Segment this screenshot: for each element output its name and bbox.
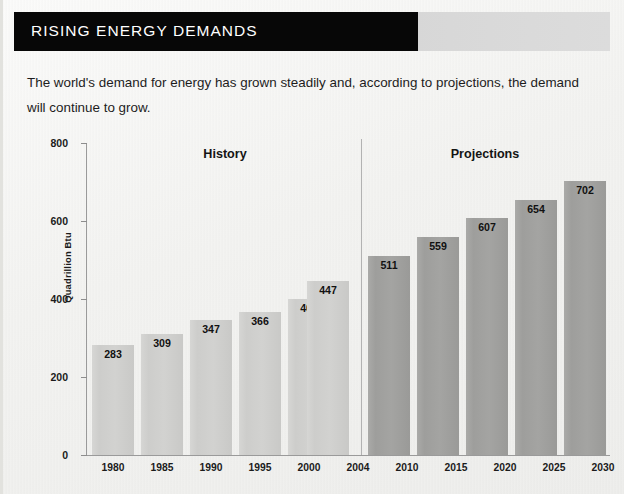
- y-tick-mark-400: [81, 299, 87, 300]
- x-tick-label-1995: 1995: [239, 462, 281, 473]
- y-tick-label-400: 400: [28, 293, 68, 305]
- x-tick-label-1990: 1990: [190, 462, 232, 473]
- bar-2010[interactable]: [368, 256, 410, 455]
- y-tick-mark-600: [81, 221, 87, 222]
- x-tick-label-1985: 1985: [141, 462, 183, 473]
- bar-value-2020: 607: [466, 221, 508, 233]
- bar-value-2004: 447: [307, 284, 349, 296]
- bar-value-1985: 309: [141, 337, 183, 349]
- y-tick-label-0: 0: [28, 449, 68, 461]
- x-tick-label-2015: 2015: [435, 462, 477, 473]
- bar-2004[interactable]: [307, 281, 349, 455]
- bar-1995[interactable]: [239, 312, 281, 455]
- bar-value-1980: 283: [92, 348, 134, 360]
- x-tick-label-2020: 2020: [484, 462, 526, 473]
- bar-value-2025: 654: [515, 203, 557, 215]
- bar-2025[interactable]: [515, 200, 557, 455]
- bar-value-2015: 559: [417, 240, 459, 252]
- y-tick-label-800: 800: [28, 137, 68, 149]
- bar-1980[interactable]: [92, 345, 134, 455]
- section-heading-history: History: [160, 147, 290, 161]
- x-tick-label-1980: 1980: [92, 462, 134, 473]
- bar-2015[interactable]: [417, 237, 459, 455]
- bar-value-1995: 366: [239, 315, 281, 327]
- bar-value-2010: 511: [368, 259, 410, 271]
- y-tick-label-600: 600: [28, 215, 68, 227]
- bar-2020[interactable]: [466, 218, 508, 455]
- bar-2030[interactable]: [564, 181, 606, 455]
- x-tick-label-2025: 2025: [533, 462, 575, 473]
- y-tick-label-200: 200: [28, 371, 68, 383]
- chart-page: RISING ENERGY DEMANDS The world's demand…: [0, 0, 624, 494]
- x-tick-label-2010: 2010: [386, 462, 428, 473]
- x-axis-line: [86, 455, 610, 456]
- bar-1985[interactable]: [141, 334, 183, 455]
- bar-chart: Quadrillion Btu 800 600 400 200 0 Histor…: [0, 0, 624, 494]
- history-projections-divider: [361, 139, 362, 455]
- bar-value-2030: 702: [564, 184, 606, 196]
- x-tick-label-2030: 2030: [582, 462, 624, 473]
- x-tick-label-2004: 2004: [337, 462, 379, 473]
- y-tick-mark-800: [81, 143, 87, 144]
- x-tick-label-2000: 2000: [288, 462, 330, 473]
- y-tick-mark-0: [81, 455, 87, 456]
- bar-1990[interactable]: [190, 320, 232, 455]
- y-tick-mark-200: [81, 377, 87, 378]
- section-heading-projections: Projections: [420, 147, 550, 161]
- bar-value-1990: 347: [190, 323, 232, 335]
